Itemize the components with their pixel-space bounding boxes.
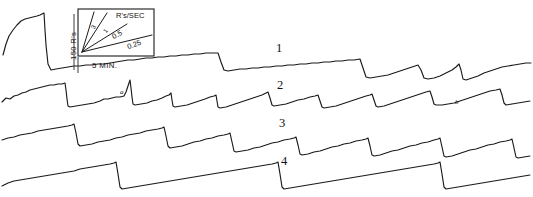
trace-label-3: 3: [279, 117, 285, 130]
inset-layer: [0, 0, 533, 197]
time-scale-label: 5 MIN.: [92, 62, 117, 70]
event-mark-a: a: [120, 89, 124, 96]
inset-title: R's/SEC: [116, 12, 144, 20]
recording-figure: R's/SEC 3 1 0.5 0.25 150 R's 5 MIN. 1 2 …: [0, 0, 533, 197]
trace-label-1: 1: [276, 42, 282, 55]
event-mark-b: b: [455, 99, 459, 106]
trace-label-4: 4: [281, 155, 287, 168]
vertical-scale-label: 150 R's: [70, 32, 78, 60]
trace-label-2: 2: [277, 79, 283, 92]
